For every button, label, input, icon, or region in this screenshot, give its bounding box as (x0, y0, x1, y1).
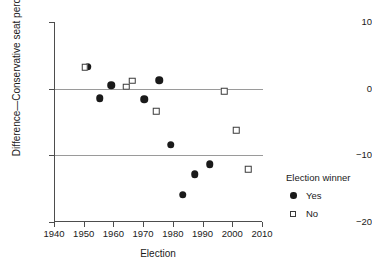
open-square-marker-icon (290, 211, 302, 217)
y-axis-tick-label: 0 (328, 84, 372, 94)
y-axis-tick-label: 10 (328, 17, 372, 27)
scatter-plot-figure: Difference—Conservative seat percentage … (0, 0, 372, 275)
data-point-no (245, 166, 252, 173)
data-point-yes (167, 141, 175, 149)
gridline-zero (55, 89, 263, 90)
y-axis-title: Difference—Conservative seat percentage (11, 0, 22, 162)
data-point-yes (96, 94, 104, 102)
x-axis-tick (232, 222, 233, 227)
data-point-yes (155, 76, 163, 84)
x-axis-tick (113, 222, 114, 227)
x-axis-tick (173, 222, 174, 227)
data-point-yes (108, 82, 116, 90)
filled-circle-marker-icon (290, 192, 302, 199)
x-axis-tick (143, 222, 144, 227)
gridline-minus-ten (55, 155, 263, 156)
data-point-no (153, 108, 160, 115)
legend-item-no[interactable]: No (286, 208, 372, 219)
data-point-no (81, 64, 88, 71)
legend: Election winner Yes No (286, 172, 372, 219)
x-axis-tick (84, 222, 85, 227)
data-point-no (129, 77, 136, 84)
x-axis-tick (203, 222, 204, 227)
data-point-no (123, 83, 130, 90)
x-axis-tick (262, 222, 263, 227)
data-point-yes (191, 170, 199, 178)
legend-item-yes[interactable]: Yes (286, 190, 372, 201)
legend-item-label: Yes (306, 190, 322, 201)
data-point-yes (206, 160, 214, 168)
x-axis-title: Election (54, 248, 262, 259)
data-point-yes (179, 191, 187, 199)
data-point-no (233, 127, 240, 134)
data-point-no (221, 88, 228, 95)
y-axis-tick-label: −10 (328, 150, 372, 160)
data-point-yes (140, 96, 148, 104)
x-axis-tick (54, 222, 55, 227)
x-axis-tick-label: 2010 (242, 229, 282, 239)
legend-item-label: No (306, 208, 318, 219)
legend-title: Election winner (286, 172, 372, 183)
plot-area (54, 22, 262, 222)
